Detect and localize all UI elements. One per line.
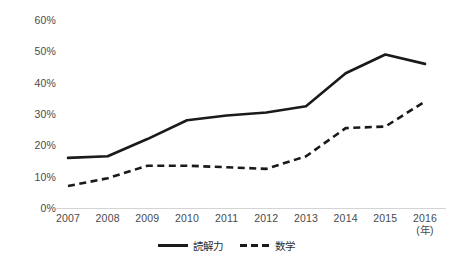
x-axis-tick-label: 2009 [135,212,159,224]
x-axis-tick-label: 2011 [215,212,238,224]
x-axis-tick-label: 2012 [254,212,278,224]
line-chart: 0%10%20%30%40%50%60% 2007200820092010201… [0,0,452,260]
x-axis-tick-label: 2010 [175,212,199,224]
x-axis-tick-label: 2007 [56,212,80,224]
legend-item-math: 数学 [240,238,295,253]
legend-swatch-solid-icon [158,244,188,247]
legend-item-reading: 読解力 [158,238,223,253]
x-axis-tick-label: 2015 [373,212,397,224]
x-axis-tick-label: 2013 [294,212,318,224]
legend-label-reading: 読解力 [193,238,223,253]
legend-label-math: 数学 [275,238,295,253]
x-axis-labels: 2007200820092010201120122013201420152016… [0,0,452,260]
x-axis-tick-label: 2016(年) [413,212,437,236]
chart-legend: 読解力 数学 [0,238,452,253]
x-axis-tick-label: 2008 [96,212,120,224]
legend-swatch-dashed-icon [240,244,270,247]
x-axis-tick-label: 2014 [334,212,358,224]
x-axis-unit-label: (年) [413,224,437,236]
